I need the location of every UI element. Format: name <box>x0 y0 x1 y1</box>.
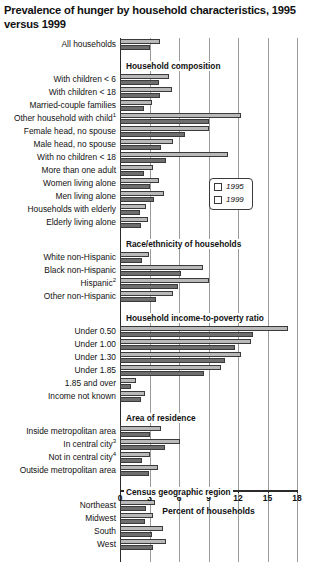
row-label: Income not known <box>0 390 116 403</box>
bar-1999 <box>120 332 253 337</box>
chart-row: Inside metropolitan area <box>0 425 310 439</box>
bar-1995 <box>120 252 149 257</box>
chart-row: Households with elderly <box>0 203 310 217</box>
bar-1995 <box>120 365 221 370</box>
section-header-label: Census geographic region <box>124 487 233 497</box>
chart-row: White non-Hispanic <box>0 251 310 265</box>
bar-1999 <box>120 132 185 137</box>
chart-row: Under 1.85 <box>0 364 310 378</box>
chart-row: Elderly living alone <box>0 216 310 230</box>
section-header-label: Household composition <box>124 61 223 71</box>
row-label: Not in central city4 <box>0 451 116 464</box>
section-header: Area of residence <box>120 412 198 425</box>
chart-row: Black non-Hispanic <box>0 264 310 278</box>
chart-row: Women living alone <box>0 177 310 191</box>
bar-1995 <box>120 539 166 544</box>
footnote-marker: 4 <box>113 451 116 457</box>
row-label: Other household with child1 <box>0 112 116 125</box>
bar-1999 <box>120 80 159 85</box>
legend-label-1995: 1995 <box>226 181 244 193</box>
bar-1999 <box>120 258 142 263</box>
bar-1995 <box>120 191 164 196</box>
chart-row: Outside metropolitan area <box>0 464 310 478</box>
bar-1999 <box>120 458 142 463</box>
row-label: Under 0.50 <box>0 325 116 338</box>
bar-1995 <box>120 165 153 170</box>
bar-1999 <box>120 119 209 124</box>
bar-1999 <box>120 345 235 350</box>
row-label: 1.85 and over <box>0 377 116 390</box>
row-label: Outside metropolitan area <box>0 464 116 477</box>
row-label: Elderly living alone <box>0 216 116 229</box>
row-label: White non-Hispanic <box>0 251 116 264</box>
row-label: South <box>0 525 116 538</box>
row-label: Married-couple families <box>0 99 116 112</box>
bar-1995 <box>120 391 145 396</box>
row-label: Women living alone <box>0 177 116 190</box>
row-label: With no children < 18 <box>0 151 116 164</box>
footnote-marker: 2 <box>113 277 116 283</box>
bar-1999 <box>120 106 144 111</box>
bar-1999 <box>120 358 225 363</box>
row-label: West <box>0 538 116 551</box>
plot-area: All householdsHousehold compositionWith … <box>0 38 310 488</box>
bar-1995 <box>120 426 161 431</box>
chart-row: More than one adult <box>0 164 310 178</box>
row-label: Under 1.30 <box>0 351 116 364</box>
bar-1999 <box>120 271 181 276</box>
section-header: Census geographic region <box>120 486 233 499</box>
footnote-marker: 3 <box>113 438 116 444</box>
bar-1995 <box>120 352 241 357</box>
row-label: With children < 6 <box>0 73 116 86</box>
bar-1995 <box>120 326 288 331</box>
page-title: Prevalence of hunger by household charac… <box>4 4 304 31</box>
bar-1995 <box>120 439 180 444</box>
bar-1995 <box>120 178 159 183</box>
chart-row: Under 1.00 <box>0 338 310 352</box>
bar-1999 <box>120 471 149 476</box>
chart-row: Male head, no spouse <box>0 138 310 152</box>
chart-row: Other household with child1 <box>0 112 310 126</box>
row-label: In central city3 <box>0 438 116 451</box>
row-label: With children < 18 <box>0 86 116 99</box>
bar-1995 <box>120 465 158 470</box>
bar-1999 <box>120 532 152 537</box>
bar-1999 <box>120 519 145 524</box>
chart-row: In central city3 <box>0 438 310 452</box>
bar-1995 <box>120 113 241 118</box>
row-label: Hispanic2 <box>0 277 116 290</box>
bar-1999 <box>120 284 178 289</box>
bar-1999 <box>120 384 131 389</box>
bar-1995 <box>120 378 136 383</box>
section-header-label: Race/ethnicity of households <box>124 239 243 249</box>
row-label: Black non-Hispanic <box>0 264 116 277</box>
bar-1995 <box>120 139 173 144</box>
bar-1999 <box>120 158 166 163</box>
section-header-label: Household income-to-poverty ratio <box>124 313 266 323</box>
bar-1999 <box>120 545 153 550</box>
chart-row: Under 1.30 <box>0 351 310 365</box>
row-label: Female head, no spouse <box>0 125 116 138</box>
chart-legend: 1995 1999 <box>209 178 253 210</box>
bar-1999 <box>120 184 150 189</box>
bar-1999 <box>120 397 141 402</box>
x-tick-label-15: 15 <box>258 493 278 504</box>
row-label: Under 1.85 <box>0 364 116 377</box>
chart-row: Hispanic2 <box>0 277 310 291</box>
bar-1995 <box>120 526 163 531</box>
bar-1995 <box>120 126 209 131</box>
legend-label-1999: 1999 <box>226 194 244 206</box>
bar-1999 <box>120 171 144 176</box>
bar-1995 <box>120 278 209 283</box>
section-header: Race/ethnicity of households <box>120 238 243 251</box>
bar-1995 <box>120 39 160 44</box>
chart-row: West <box>0 538 310 552</box>
bar-1999 <box>120 93 160 98</box>
chart-row: With no children < 18 <box>0 151 310 165</box>
bar-1995 <box>120 100 152 105</box>
chart-row: South <box>0 525 310 539</box>
row-label: Other non-Hispanic <box>0 290 116 303</box>
chart-row: All households <box>0 38 310 52</box>
row-label: Midwest <box>0 512 116 525</box>
chart-row: Other non-Hispanic <box>0 290 310 304</box>
